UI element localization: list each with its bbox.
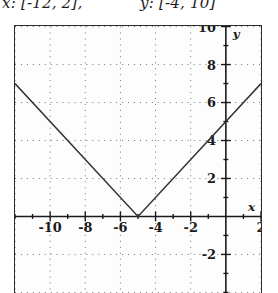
x-tick-label: -6 [113,220,127,235]
y-axis-label: y [232,27,241,41]
x-range-text: x: [-12, 2], [2,0,82,12]
coordinate-plane: -10-8-6-4-22108642-2xy [15,26,261,293]
x-tick-label: 2 [257,220,261,235]
x-tick-label: -4 [148,220,162,235]
y-tick-label: 8 [207,58,216,73]
y-range-text: y: [-4, 10] [140,0,215,12]
series-line [15,84,261,217]
x-tick-label: -2 [184,220,198,235]
x-tick-label: -8 [78,220,92,235]
x-tick-label: -10 [39,220,62,235]
y-tick-label: -2 [202,247,216,262]
data-series [15,84,261,217]
x-axis-label: x [247,200,256,214]
tick-marks [15,27,261,293]
range-caption: x: [-12, 2], y: [-4, 10] [0,0,278,14]
plot-frame: -10-8-6-4-22108642-2xy [14,25,262,293]
y-tick-label: 6 [207,95,216,110]
y-tick-label: 10 [198,26,216,35]
y-tick-label: 2 [207,171,216,186]
